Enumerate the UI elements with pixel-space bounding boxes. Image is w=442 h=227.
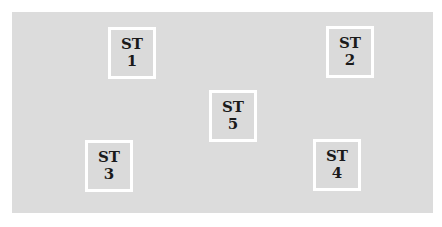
station-3-label: ST: [98, 149, 120, 166]
station-2-number: 2: [345, 52, 355, 69]
station-4-box: ST 4: [313, 139, 361, 191]
station-4-label: ST: [326, 148, 348, 165]
station-4-number: 4: [332, 165, 342, 182]
station-2-box: ST 2: [326, 26, 374, 78]
station-1-number: 1: [127, 53, 137, 70]
station-1-label: ST: [121, 36, 143, 53]
station-5-box: ST 5: [209, 90, 257, 142]
station-2-label: ST: [339, 35, 361, 52]
station-1-box: ST 1: [108, 27, 156, 79]
station-5-number: 5: [228, 116, 238, 133]
station-3-box: ST 3: [85, 140, 133, 192]
station-5-label: ST: [222, 99, 244, 116]
station-3-number: 3: [104, 166, 114, 183]
